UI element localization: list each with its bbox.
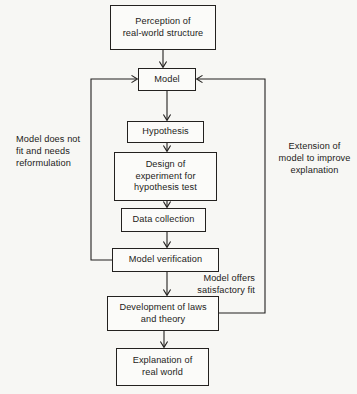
- connector-development-to-explanation: [160, 331, 167, 347]
- connector-perception-to-model: [159, 50, 166, 67]
- node-design-of-experiment[interactable]: Design of experiment for hypothesis test: [114, 152, 217, 201]
- node-hypothesis[interactable]: Hypothesis: [127, 121, 204, 143]
- node-data-collection[interactable]: Data collection: [121, 208, 206, 232]
- node-explanation-of-real-world[interactable]: Explanation of real world: [116, 348, 209, 386]
- connector-design-to-data: [163, 201, 170, 207]
- node-model[interactable]: Model: [138, 68, 196, 91]
- right-loop-label: Extension of model to improve explanatio…: [272, 140, 357, 177]
- connector-hypothesis-to-design: [163, 143, 170, 151]
- flowchart-diagram: Perception of real-world structure Model…: [0, 0, 357, 394]
- satisfactory-fit-label: Model offers satisfactory fit: [168, 272, 255, 296]
- connector-model-to-hypothesis: [163, 91, 170, 120]
- node-perception[interactable]: Perception of real-world structure: [110, 5, 216, 50]
- left-loop-label: Model does not fit and needs reformulati…: [16, 133, 112, 170]
- connector-data-to-verification: [163, 232, 170, 247]
- node-development-of-laws[interactable]: Development of laws and theory: [107, 296, 219, 331]
- node-model-verification[interactable]: Model verification: [112, 248, 219, 272]
